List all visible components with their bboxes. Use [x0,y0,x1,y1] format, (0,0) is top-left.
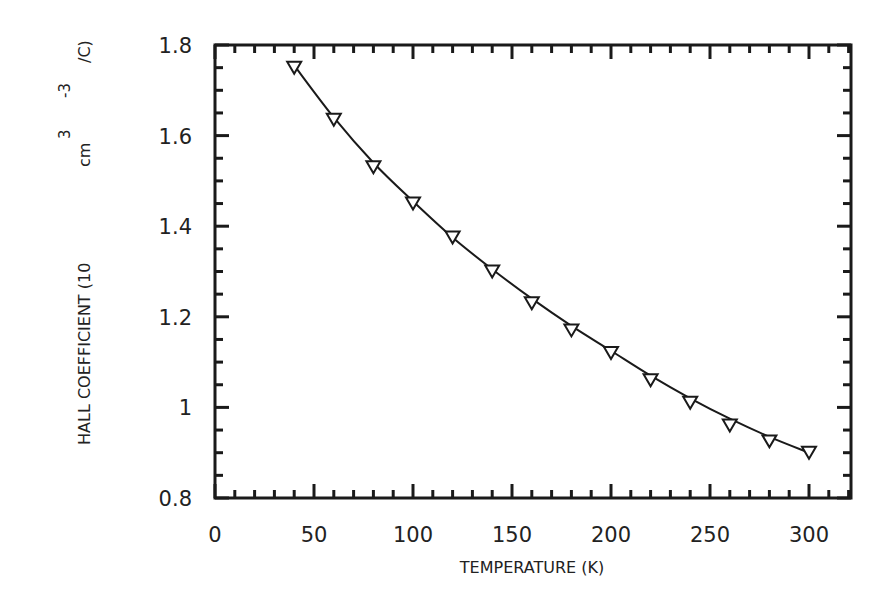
x-tick-label: 50 [301,523,328,547]
triangle-marker-icon [644,374,658,386]
svg-text:/C): /C) [75,40,94,63]
y-tick-label: 0.8 [159,487,192,511]
triangle-marker-icon [762,435,776,447]
y-axis-label-end: /C) [75,40,94,63]
svg-text:cm: cm [75,143,94,167]
y-axis-label: HALL COEFFICIENT (10 [75,263,94,445]
svg-text:3: 3 [56,129,74,139]
hall-coefficient-chart: 050100150200250300 0.811.21.41.61.8 TEMP… [0,0,881,612]
x-tick-label: 200 [591,523,631,547]
triangle-marker-icon [723,420,737,432]
y-tick-label: 1.8 [159,34,192,58]
svg-text:-3: -3 [56,83,74,98]
triangle-marker-icon [683,397,697,409]
x-tick-label: 150 [492,523,532,547]
x-tick-label: 250 [690,523,730,547]
x-axis-label: TEMPERATURE (K) [459,558,604,577]
x-tick-label: 300 [789,523,829,547]
y-axis-label-exponent-1: -3 [56,83,74,98]
y-tick-label: 1.4 [159,215,192,239]
triangle-marker-icon [406,198,420,210]
x-tick-label: 100 [393,523,433,547]
data-markers [287,62,816,459]
y-axis-tick-labels: 0.811.21.41.61.8 [159,34,192,511]
y-tick-label: 1.2 [159,306,192,330]
triangle-marker-icon [485,266,499,278]
svg-text:HALL COEFFICIENT (10: HALL COEFFICIENT (10 [75,263,94,445]
x-axis-tick-labels: 050100150200250300 [208,523,829,547]
y-tick-label: 1.6 [159,125,192,149]
y-axis-label-exponent-2: 3 [56,129,74,139]
triangle-marker-icon [564,324,578,336]
fit-curve [294,65,809,452]
y-axis-label-unit: cm [75,143,94,167]
y-tick-label: 1 [179,396,192,420]
triangle-marker-icon [802,447,816,459]
x-tick-label: 0 [208,523,221,547]
